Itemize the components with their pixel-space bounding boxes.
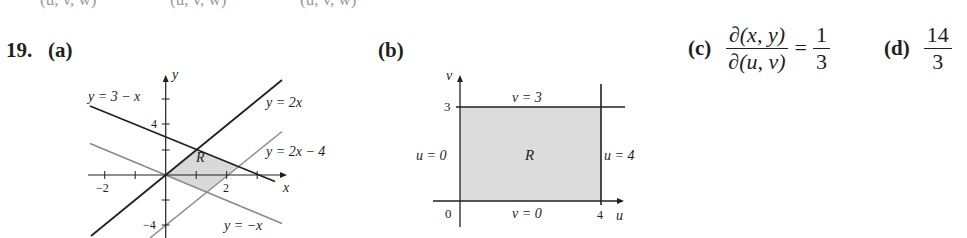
- label-u-eq-0: u = 0: [416, 148, 446, 163]
- region-r-label-b: R: [524, 147, 534, 163]
- tick-u-4: 4: [597, 208, 603, 222]
- tick-origin: 0: [445, 206, 452, 221]
- tick-v-3: 3: [444, 99, 451, 114]
- label-v-eq-0: v = 0: [512, 206, 542, 221]
- graph-b: u v 0 4 3 R v = 3 v = 0 u = 0 u = 4: [0, 0, 967, 238]
- axis-label-u: u: [616, 208, 623, 223]
- label-v-eq-3: v = 3: [512, 90, 542, 105]
- u-axis-arrow: [617, 198, 624, 204]
- v-axis-arrow: [457, 75, 463, 82]
- axis-label-v: v: [446, 68, 453, 83]
- label-u-eq-4: u = 4: [604, 148, 634, 163]
